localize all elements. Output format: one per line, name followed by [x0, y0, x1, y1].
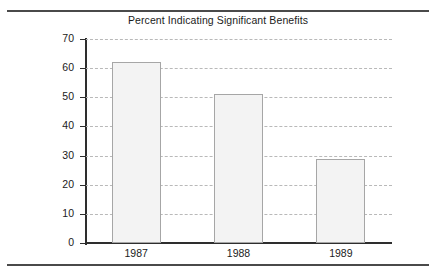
y-axis-tick-label: 10: [48, 207, 74, 219]
y-axis-tick-label: 50: [48, 90, 74, 102]
chart-figure: Percent Indicating Significant Benefits …: [0, 0, 436, 274]
x-axis-category-labels: 198719881989: [85, 247, 392, 263]
y-axis-tick-label: 40: [48, 119, 74, 131]
y-axis-tick: [80, 126, 86, 127]
y-axis-tick: [80, 243, 86, 244]
y-axis-tick-labels: 010203040506070: [44, 39, 74, 243]
x-axis-label-1987: 1987: [124, 247, 147, 259]
plot-area: [85, 39, 392, 243]
y-axis-tick: [80, 39, 86, 40]
x-axis-label-1988: 1988: [227, 247, 250, 259]
y-axis-tick: [80, 214, 86, 215]
bar-1987: [112, 62, 161, 243]
y-axis-tick-label: 30: [48, 149, 74, 161]
y-axis-tick: [80, 185, 86, 186]
bottom-horizontal-rule: [7, 264, 429, 266]
y-axis-tick: [80, 68, 86, 69]
y-axis-tick: [80, 97, 86, 98]
x-axis-label-1989: 1989: [329, 247, 352, 259]
bar-1989: [316, 159, 365, 244]
y-axis-tick-label: 0: [48, 236, 74, 248]
chart-title: Percent Indicating Significant Benefits: [0, 14, 436, 26]
y-axis-tick-label: 60: [48, 61, 74, 73]
gridline: [85, 39, 392, 40]
y-axis-tick-label: 20: [48, 178, 74, 190]
bar-1988: [214, 94, 263, 243]
top-horizontal-rule: [7, 10, 429, 12]
y-axis-tick: [80, 156, 86, 157]
y-axis-tick-label: 70: [48, 32, 74, 44]
